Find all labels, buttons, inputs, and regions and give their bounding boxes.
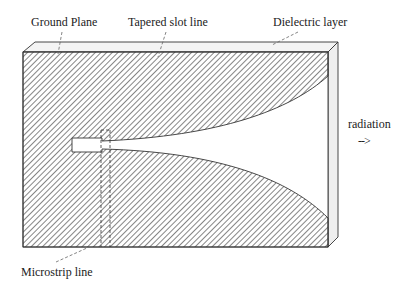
- dielectric-right-edge: [328, 42, 338, 247]
- dielectric-layer-label: Dielectric layer: [273, 16, 347, 28]
- tapered-slot-line-label: Tapered slot line: [128, 16, 208, 28]
- tapered-slot-antenna-diagram: [0, 0, 412, 292]
- radiation-arrow-icon: -->: [358, 135, 370, 147]
- radiation-label: radiation: [348, 118, 391, 130]
- microstrip-line-label: Microstrip line: [21, 266, 93, 278]
- ground-plane-label: Ground Plane: [31, 16, 97, 28]
- microstrip-leader: [56, 248, 87, 262]
- dielectric-top-edge: [23, 42, 338, 52]
